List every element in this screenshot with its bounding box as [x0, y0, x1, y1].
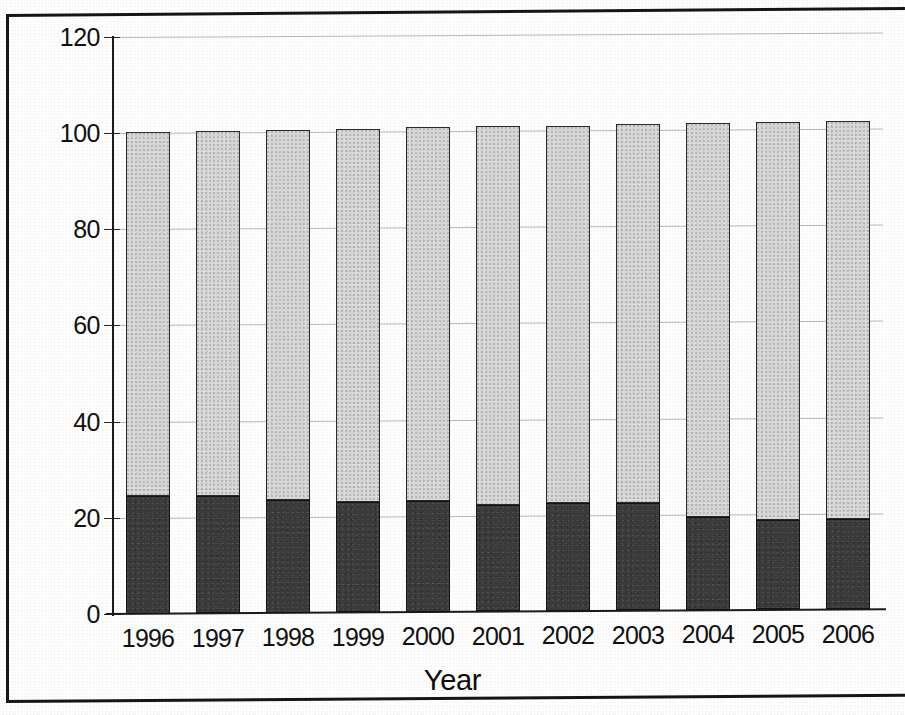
- bar-segment-dark: [546, 503, 590, 610]
- stacked-bar: [756, 122, 800, 609]
- y-axis-tick-label: 0: [30, 600, 100, 629]
- x-axis-title: Year: [0, 664, 905, 697]
- bar-segment-dark: [616, 503, 660, 610]
- bar-segment-dark: [336, 502, 380, 613]
- y-axis-line: [112, 36, 114, 616]
- chart-figure: 120100806040200 Percent 1996199719981999…: [0, 0, 905, 715]
- bar-segment-light: [266, 130, 310, 499]
- stacked-bar: [126, 132, 170, 614]
- bar-segment-dark: [826, 519, 870, 609]
- page-frame-left-border: [6, 14, 9, 702]
- bar-segment-light: [546, 126, 590, 504]
- bar-segment-light: [476, 126, 520, 505]
- stacked-bar: [406, 127, 450, 611]
- gridline: [113, 32, 883, 37]
- x-axis-tick-label: 2001: [458, 622, 538, 651]
- stacked-bar: [826, 121, 870, 609]
- x-axis-tick-label: 2006: [808, 620, 888, 649]
- y-axis-tick-label: 100: [30, 119, 100, 148]
- bar-segment-dark: [476, 505, 520, 611]
- bar-segment-dark: [756, 520, 800, 609]
- bar-segment-light: [406, 127, 450, 501]
- x-axis-tick-label: 1997: [178, 624, 258, 653]
- bar-segment-dark: [126, 496, 170, 614]
- stacked-bar: [546, 126, 590, 611]
- stacked-bar: [266, 130, 310, 612]
- bar-segment-dark: [686, 517, 730, 610]
- y-axis-tick-label: 40: [30, 408, 100, 437]
- y-axis-tick-label: 80: [30, 215, 100, 244]
- y-axis-tick-label: 20: [30, 504, 100, 533]
- page-frame-top-border: [6, 7, 905, 17]
- stacked-bar: [686, 123, 730, 610]
- x-axis-tick-label: 2000: [388, 622, 468, 651]
- bar-segment-light: [126, 132, 170, 497]
- stacked-bar: [196, 131, 240, 613]
- bar-segment-dark: [266, 500, 310, 613]
- y-axis-tick-label: 60: [30, 311, 100, 340]
- bar-segment-dark: [196, 496, 240, 614]
- bar-segment-light: [686, 123, 730, 517]
- x-axis-tick-label: 2002: [528, 621, 608, 650]
- stacked-bar: [336, 129, 380, 612]
- y-axis-title: Percent: [0, 268, 3, 366]
- bar-segment-light: [826, 121, 870, 519]
- bar-segment-dark: [406, 501, 450, 612]
- bar-segment-light: [336, 129, 380, 501]
- bar-segment-light: [616, 124, 660, 503]
- stacked-bar: [476, 126, 520, 611]
- x-axis-tick-label: 1998: [248, 623, 328, 652]
- x-axis-tick-label: 2003: [598, 621, 678, 650]
- bar-segment-light: [756, 122, 800, 520]
- stacked-bar: [616, 124, 660, 610]
- x-axis-tick-label: 1999: [318, 623, 398, 652]
- y-axis-tick-label: 120: [30, 23, 100, 52]
- bar-segment-light: [196, 131, 240, 496]
- x-axis-tick-label: 2004: [668, 620, 748, 649]
- x-axis-tick-label: 2005: [738, 620, 818, 649]
- x-axis-tick-label: 1996: [108, 624, 188, 653]
